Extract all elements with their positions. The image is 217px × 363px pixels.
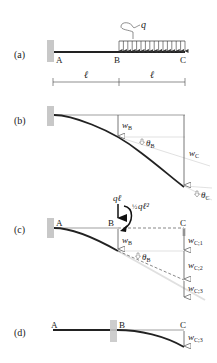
- fixed-wall-d: [110, 320, 117, 342]
- wC3-label-d: wC;3: [188, 332, 203, 343]
- panel-label-d: (d): [14, 327, 26, 339]
- wB-label-b: wB: [122, 120, 132, 131]
- force-label: qℓ: [113, 193, 122, 203]
- panel-b: (b) wB θB wC θC: [14, 106, 212, 201]
- wB-label-c: wB: [122, 235, 132, 246]
- load-q-label: q: [141, 19, 146, 30]
- point-A-label-c: A: [56, 218, 63, 228]
- point-C-label-d: C: [180, 320, 186, 330]
- panel-label-a: (a): [14, 49, 25, 61]
- wC1-label: wC;1: [188, 235, 203, 246]
- span-left-label: ℓ: [84, 69, 88, 80]
- deflected-beam-b: [54, 115, 184, 187]
- thetaB-label-c: θB: [142, 252, 150, 263]
- span-right-label: ℓ: [150, 69, 154, 80]
- panel-a: (a) A B C q: [14, 19, 186, 86]
- moment-label: qℓ²: [138, 201, 149, 211]
- moment-arc-icon: [124, 206, 132, 229]
- panel-label-b: (b): [14, 115, 26, 127]
- point-A-label: A: [56, 55, 63, 65]
- distributed-load: [119, 41, 185, 51]
- wC2-label: wC;2: [188, 260, 203, 271]
- tangent-dashed-c: [118, 251, 184, 280]
- point-A-label-d: A: [51, 320, 58, 330]
- tangent-at-B: [118, 137, 210, 166]
- thetaB-label-b: θB: [146, 138, 154, 149]
- panel-d: (d) A B C wC;3: [14, 320, 203, 347]
- fixed-wall-b: [47, 106, 54, 126]
- load-leader-icon: [121, 23, 140, 39]
- wC-label-b: wC: [189, 148, 199, 159]
- wC3-label: wC;3: [188, 283, 203, 294]
- panel-label-c: (c): [14, 224, 25, 236]
- moment-fraction: ½: [132, 203, 137, 211]
- thetaC-label-b: θC: [201, 190, 209, 201]
- dimension-line: [53, 78, 185, 86]
- point-C-label: C: [180, 55, 186, 65]
- point-B-label-c: B: [108, 218, 114, 228]
- panel-c: (c) A B C qℓ ½ qℓ² wB θB wC;1 wC;2: [14, 193, 205, 300]
- deflected-beam-c: [54, 228, 118, 251]
- moment-arrowhead-icon: [120, 225, 127, 232]
- point-B-label-d: B: [119, 320, 125, 330]
- guide-horizontal-C: [184, 186, 212, 188]
- point-C-label-c: C: [180, 218, 186, 228]
- fixed-wall-a: [47, 40, 54, 62]
- thetaB-arrow-icon-c: [136, 253, 141, 259]
- point-B-label: B: [114, 55, 120, 65]
- deflected-beam-d: [117, 330, 184, 347]
- beam-superposition-diagram: (a) A B C q: [0, 0, 217, 363]
- fixed-wall-c: [47, 218, 54, 238]
